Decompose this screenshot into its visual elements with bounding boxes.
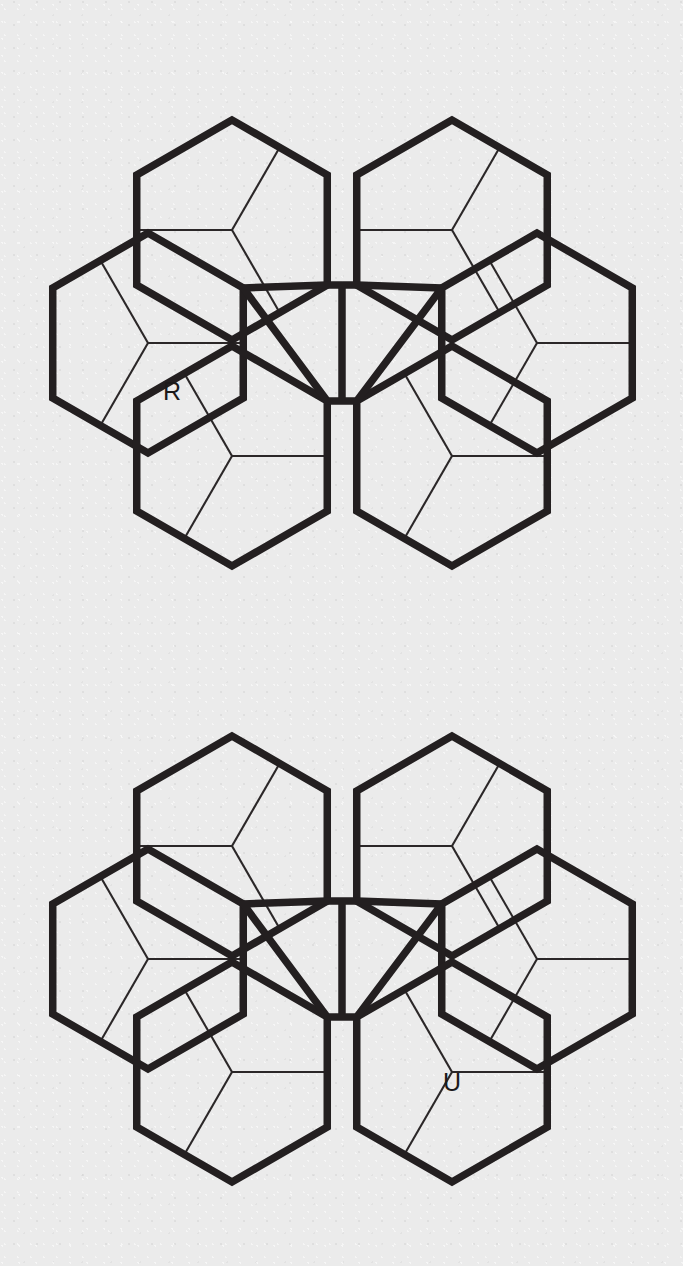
figure-top-subdivision-bottom-left-1 (184, 456, 232, 539)
figure-bottom-subdivision-bottom-left-1 (184, 1072, 232, 1155)
figure-top-subdivision-top-left-1 (232, 148, 280, 231)
figure-top-cell-label: R (163, 377, 181, 405)
figure-top-subdivision-left-0 (100, 261, 148, 344)
figure-bottom-subdivision-left-1 (100, 959, 148, 1042)
figure-bottom-subdivision-top-right-1 (452, 764, 500, 847)
figure-bottom-subdivision-left-0 (100, 877, 148, 960)
figure-top-pentagon-subdivisions (100, 148, 632, 539)
figure-top-subdivision-left-1 (100, 343, 148, 426)
tiling-figure-top: R (0, 0, 683, 650)
figure-top-subdivision-top-right-1 (452, 148, 500, 231)
figure-bottom-cell-label: U (443, 1068, 461, 1096)
figure-bottom-subdivision-top-left-1 (232, 764, 280, 847)
figure-bottom-pentagon-subdivisions (100, 764, 632, 1155)
figure-bottom-canvas: U (0, 616, 683, 1266)
tiling-figure-bottom: U (0, 616, 683, 1266)
figure-top-canvas: R (0, 0, 683, 650)
figure-top-subdivision-bottom-right-1 (404, 456, 452, 539)
